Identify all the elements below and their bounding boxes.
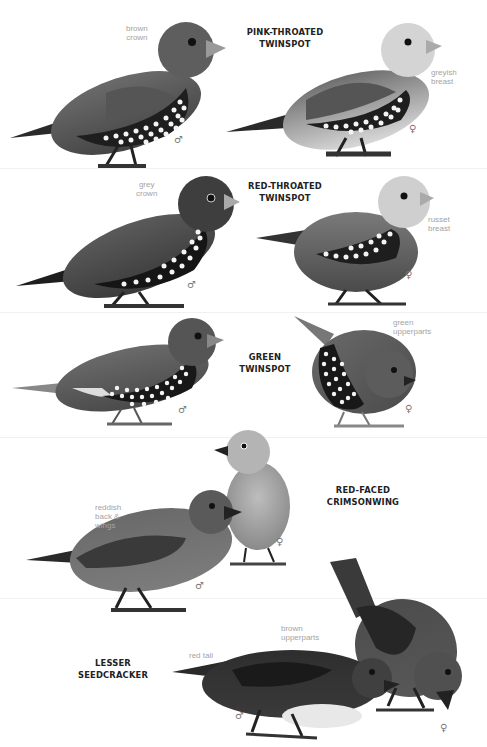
bird-pink-throated-twinspot-female (226, 20, 446, 160)
annotation-russet-breast: russet breast (428, 215, 450, 233)
annotation-red-tail: red tail (189, 651, 213, 660)
annotation-brown-upperparts: brown upperparts (281, 624, 319, 642)
section-divider (0, 312, 487, 313)
male-symbol: ♂ (174, 135, 183, 145)
male-symbol: ♂ (235, 711, 244, 721)
female-symbol: ♀ (409, 124, 416, 134)
annotation-grey-crown: grey crown (136, 180, 157, 198)
bird-red-throated-twinspot-female (256, 174, 436, 306)
male-symbol: ♂ (187, 280, 196, 290)
bird-red-faced-crimsonwing-male (26, 488, 246, 616)
bird-pink-throated-twinspot-male (6, 18, 226, 170)
female-symbol: ♀ (405, 270, 412, 280)
female-symbol: ♀ (440, 723, 447, 733)
species-title-lesser-seedcracker: LESSER SEEDCRACKER (73, 657, 152, 681)
annotation-greyish-breast: greyish breast (431, 68, 457, 86)
male-symbol: ♂ (195, 581, 204, 591)
annotation-reddish-back-wings: reddish back & wings (95, 503, 121, 530)
bird-red-throated-twinspot-male (14, 174, 240, 310)
species-title-green-twinspot: GREEN TWINSPOT (234, 351, 296, 375)
species-title-red-faced-crimsonwing: RED-FACED CRIMSONWING (323, 484, 402, 508)
male-symbol: ♂ (178, 405, 187, 415)
female-symbol: ♀ (276, 537, 283, 547)
annotation-green-upperparts: green upperparts (393, 318, 431, 336)
female-symbol: ♀ (405, 404, 412, 414)
bird-green-twinspot-male (12, 318, 226, 430)
annotation-brown-crown: brown crown (126, 24, 148, 42)
field-guide-plate: PINK-THROATED TWINSPOT brown crown (0, 0, 487, 747)
